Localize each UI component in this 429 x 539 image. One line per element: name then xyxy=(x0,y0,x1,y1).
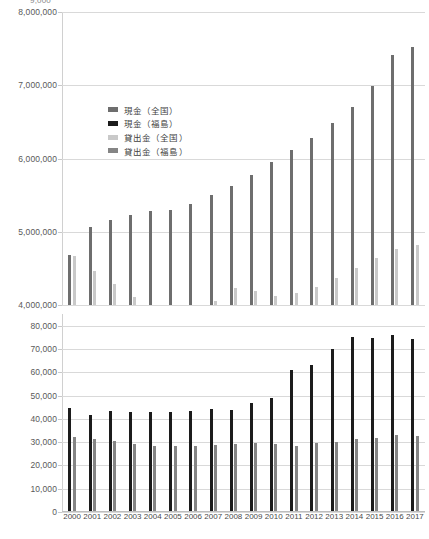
bar-loans_national-2002 xyxy=(113,284,116,305)
bar-group-2014 xyxy=(344,12,364,305)
x-tick-label-2014: 2014 xyxy=(346,512,364,521)
bar-loans_fukushima-2002 xyxy=(113,441,116,512)
bar-loans_fukushima-2013 xyxy=(335,442,338,512)
bar-cash_national-2013 xyxy=(331,123,334,305)
legend-item-0[interactable]: 現金（全国） xyxy=(108,104,188,116)
bar-cash_fukushima-2009 xyxy=(250,403,253,512)
y-tick-label: 10,000 xyxy=(30,484,57,494)
clipped-axis-label: 9,000 xyxy=(30,0,51,5)
bar-loans_national-2010 xyxy=(274,296,277,306)
bar-cash_national-2006 xyxy=(189,204,192,305)
bar-cash_fukushima-2002 xyxy=(109,411,112,512)
bar-loans_national-2015 xyxy=(375,258,378,305)
bar-loans_national-2014 xyxy=(355,268,358,305)
bar-group-2006 xyxy=(183,314,203,512)
legend-item-3[interactable]: 貸出金（福島） xyxy=(108,145,188,157)
bar-cash_fukushima-2006 xyxy=(189,411,192,512)
bar-group-2017 xyxy=(405,12,425,305)
x-tick-label-2016: 2016 xyxy=(386,512,404,521)
y-tick-mark xyxy=(58,305,62,306)
bar-loans_national-2009 xyxy=(254,291,257,305)
x-tick-label-2000: 2000 xyxy=(63,512,81,521)
bar-loans_fukushima-2012 xyxy=(315,443,318,512)
bar-group-2013 xyxy=(324,12,344,305)
bar-cash_fukushima-2003 xyxy=(129,412,132,512)
bar-cash_national-2004 xyxy=(149,211,152,306)
bar-cash_fukushima-2010 xyxy=(270,398,273,512)
y-tick-label: 5,000,000 xyxy=(18,227,57,237)
x-tick-label-2015: 2015 xyxy=(366,512,384,521)
bar-group-2007 xyxy=(203,12,223,305)
bar-group-2008 xyxy=(223,12,243,305)
y-tick-label: 7,000,000 xyxy=(18,80,57,90)
y-tick-label: 70,000 xyxy=(30,344,57,354)
legend-label: 現金（全国） xyxy=(124,104,179,116)
y-tick-label: 80,000 xyxy=(30,321,57,331)
bar-cash_fukushima-2008 xyxy=(230,410,233,512)
bar-loans_national-2012 xyxy=(315,287,318,305)
y-tick-label: 30,000 xyxy=(30,437,57,447)
y-tick-label: 4,000,000 xyxy=(18,300,57,310)
x-tick-label-2002: 2002 xyxy=(104,512,122,521)
bar-group-2016 xyxy=(385,12,405,305)
bar-group-2012 xyxy=(304,12,324,305)
legend-swatch-icon xyxy=(108,121,118,126)
bar-loans_fukushima-2003 xyxy=(133,444,136,513)
bar-group-2015 xyxy=(365,314,385,512)
bar-cash_national-2003 xyxy=(129,215,132,305)
bar-group-2009 xyxy=(244,12,264,305)
legend-swatch-icon xyxy=(108,107,118,112)
legend-label: 現金（福島） xyxy=(124,117,179,129)
bar-group-2016 xyxy=(385,314,405,512)
x-tick-label-2004: 2004 xyxy=(144,512,162,521)
bar-cash_fukushima-2007 xyxy=(210,409,213,512)
bar-cash_national-2002 xyxy=(109,220,112,305)
bar-loans_fukushima-2008 xyxy=(234,444,237,513)
chart-root: 9,000 4,000,0005,000,0006,000,0007,000,0… xyxy=(0,0,429,539)
bar-cash_fukushima-2011 xyxy=(290,370,293,512)
chart-legend: 現金（全国）現金（福島）貸出金（全国）貸出金（福島） xyxy=(108,104,188,159)
bar-loans_fukushima-2009 xyxy=(254,443,257,512)
y-tick-label: 50,000 xyxy=(30,391,57,401)
bar-cash_national-2001 xyxy=(89,227,92,305)
bar-loans_national-2016 xyxy=(395,249,398,305)
x-tick-label-2010: 2010 xyxy=(265,512,283,521)
legend-item-1[interactable]: 現金（福島） xyxy=(108,118,188,130)
bar-cash_fukushima-2016 xyxy=(391,335,394,513)
bar-cash_national-2009 xyxy=(250,175,253,305)
bar-group-2011 xyxy=(284,314,304,512)
x-tick-label-2003: 2003 xyxy=(124,512,142,521)
bar-loans_fukushima-2015 xyxy=(375,438,378,512)
bar-group-2011 xyxy=(284,12,304,305)
bar-cash_fukushima-2017 xyxy=(411,339,414,512)
bar-loans_fukushima-2010 xyxy=(274,444,277,512)
x-tick-label-2011: 2011 xyxy=(285,512,302,521)
bar-cash_fukushima-2005 xyxy=(169,412,172,512)
bar-cash_national-2010 xyxy=(270,162,273,305)
y-tick-label: 60,000 xyxy=(30,367,57,377)
bar-loans_national-2017 xyxy=(416,245,419,305)
x-tick-label-2006: 2006 xyxy=(184,512,202,521)
legend-item-2[interactable]: 貸出金（全国） xyxy=(108,131,188,143)
y-tick-label: 20,000 xyxy=(30,460,57,470)
bar-cash_national-2015 xyxy=(371,86,374,305)
bar-group-2001 xyxy=(82,12,102,305)
bar-loans_national-2007 xyxy=(214,301,217,305)
lower-bars xyxy=(62,314,425,512)
bar-cash_national-2005 xyxy=(169,210,172,305)
bar-loans_fukushima-2016 xyxy=(395,435,398,512)
bar-group-2012 xyxy=(304,314,324,512)
bar-cash_national-2012 xyxy=(310,138,313,305)
bar-cash_fukushima-2014 xyxy=(351,337,354,512)
bar-group-2003 xyxy=(123,314,143,512)
x-tick-label-2007: 2007 xyxy=(204,512,222,521)
bar-cash_fukushima-2004 xyxy=(149,412,152,512)
bar-loans_national-2011 xyxy=(295,293,298,305)
bar-loans_fukushima-2007 xyxy=(214,445,217,512)
bar-group-2014 xyxy=(344,314,364,512)
bar-cash_fukushima-2000 xyxy=(68,408,71,512)
x-tick-label-2017: 2017 xyxy=(406,512,424,521)
bar-group-2001 xyxy=(82,314,102,512)
bar-group-2005 xyxy=(163,314,183,512)
bar-loans_national-2001 xyxy=(93,271,96,305)
